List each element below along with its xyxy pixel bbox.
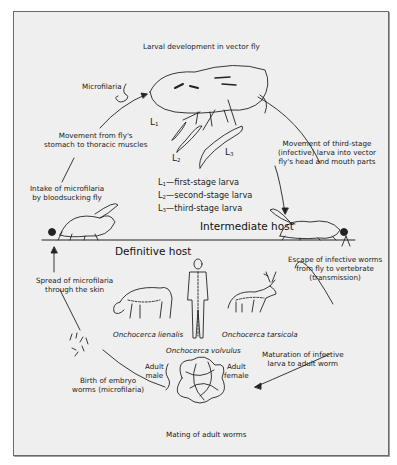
label-deer-species: Onchocerca tarsicola bbox=[222, 330, 298, 339]
label-adult-female: Adult female bbox=[224, 362, 249, 380]
larva-l2 bbox=[177, 126, 202, 152]
arrow-stomach-to-thorax bbox=[100, 94, 147, 128]
label-escape: Escape of infective worms from fly to ve… bbox=[288, 255, 382, 282]
label-movement-third-stage: Movement of third-stage (infective) larv… bbox=[278, 139, 376, 166]
cattle bbox=[114, 287, 172, 318]
label-maturation: Maturation of infective larva to adult w… bbox=[262, 350, 344, 368]
label-spread: Spread of microfilaria through the skin bbox=[36, 276, 113, 294]
label-adult-male: Adult male bbox=[145, 362, 164, 380]
deer bbox=[228, 280, 276, 312]
arrow-intake bbox=[62, 158, 74, 182]
label-intermediate-host: Intermediate host bbox=[200, 220, 294, 232]
label-birth: Birth of embryo worms (microfilaria) bbox=[72, 376, 144, 394]
human-head bbox=[194, 259, 202, 269]
label-intake: Intake of microfilaria by bloodsucking f… bbox=[30, 184, 104, 202]
label-larval-development: Larval development in vector fly bbox=[143, 42, 260, 51]
legend-l3: L3—third-stage larva bbox=[158, 202, 242, 217]
microfilariae-cluster bbox=[70, 333, 88, 356]
label-definitive-host: Definitive host bbox=[115, 245, 191, 257]
label-human-species: Onchocerca volvulus bbox=[166, 346, 241, 355]
arrow-to-fly-head bbox=[275, 166, 285, 213]
label-movement-stomach: Movement from fly's stomach to thoracic … bbox=[44, 131, 147, 149]
label-cattle-species: Onchocerca lienalis bbox=[113, 330, 183, 339]
adult-male-worm bbox=[166, 364, 170, 390]
larva-l1 bbox=[172, 122, 186, 140]
life-cycle-illustration bbox=[0, 0, 397, 465]
dissected-fly-body bbox=[150, 65, 268, 113]
stage-label-l3: L3 bbox=[225, 148, 234, 159]
label-mating: Mating of adult worms bbox=[166, 430, 247, 439]
larva-l3 bbox=[200, 126, 243, 168]
fly-left-body bbox=[60, 216, 115, 237]
label-microfilaria: Microfilaria bbox=[82, 82, 122, 91]
stage-label-l1: L1 bbox=[150, 118, 159, 129]
arrow-spread-down bbox=[60, 290, 80, 330]
stage-label-l2: L2 bbox=[172, 154, 181, 165]
